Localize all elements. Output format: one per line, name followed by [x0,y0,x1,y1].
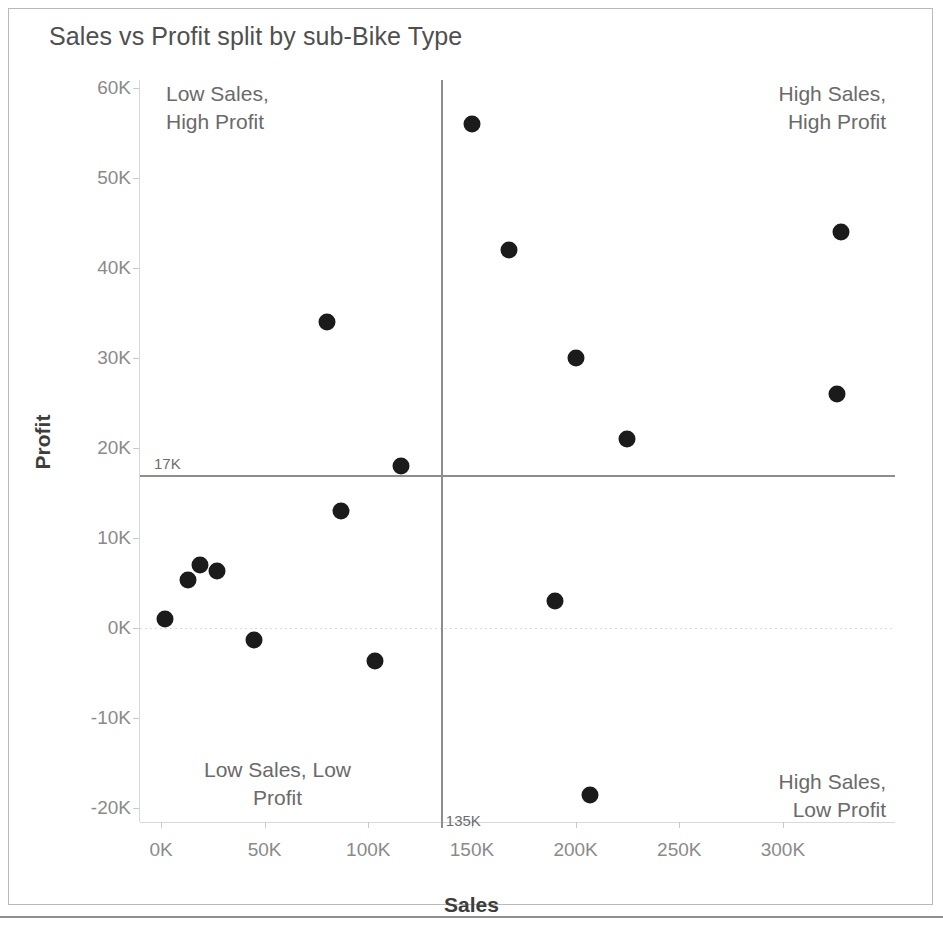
x-tick-label: 0K [149,839,172,861]
y-tick-mark [133,448,139,449]
scatter-point[interactable] [582,786,599,803]
x-tick-label: 250K [657,839,701,861]
y-tick-mark [133,718,139,719]
scatter-point[interactable] [192,557,209,574]
annotation-line-1: Low Sales, [166,80,269,108]
annotation-line-1: High Sales, [779,768,886,796]
y-axis-line [139,80,140,822]
scatter-point[interactable] [546,593,563,610]
scatter-point[interactable] [619,431,636,448]
y-axis-title: Profit [31,415,55,470]
zero-gridline-h [140,628,895,629]
x-tick-label: 100K [346,839,390,861]
y-tick-mark [133,88,139,89]
bottom-rule [0,916,943,918]
y-tick-mark [133,628,139,629]
y-tick-mark [133,538,139,539]
x-axis-title: Sales [0,893,943,917]
annotation-line-1: Low Sales, Low [155,756,400,784]
x-tick-mark [576,822,577,828]
x-tick-mark [679,822,680,828]
scatter-point[interactable] [463,116,480,133]
x-tick-mark [368,822,369,828]
annotation-line-2: Low Profit [779,796,886,824]
chart-page: Sales vs Profit split by sub-Bike Type 6… [0,0,943,943]
y-tick-mark [133,808,139,809]
annotation-low-sales-low-profit: Low Sales, Low Profit [155,756,400,813]
y-tick-mark [133,358,139,359]
annotation-low-sales-high-profit: Low Sales, High Profit [166,80,269,137]
scatter-point[interactable] [828,386,845,403]
annotation-high-sales-high-profit: High Sales, High Profit [779,80,886,137]
y-tick-mark [133,178,139,179]
scatter-point[interactable] [318,314,335,331]
chart-title: Sales vs Profit split by sub-Bike Type [49,22,462,51]
scatter-point[interactable] [366,653,383,670]
x-tick-label: 50K [248,839,282,861]
scatter-point[interactable] [208,563,225,580]
reference-line-horizontal [140,475,895,477]
scatter-point[interactable] [179,572,196,589]
x-tick-label: 200K [553,839,597,861]
annotation-high-sales-low-profit: High Sales, Low Profit [779,768,886,825]
scatter-point[interactable] [333,503,350,520]
x-tick-mark [265,822,266,828]
annotation-line-2: High Profit [779,108,886,136]
x-tick-label: 150K [450,839,494,861]
annotation-line-2: High Profit [166,108,269,136]
y-axis-title-wrap: Profit [62,0,102,943]
scatter-point[interactable] [157,611,174,628]
x-tick-mark [161,822,162,828]
scatter-point[interactable] [501,242,518,259]
reference-line-label-vertical: 135K [446,812,481,829]
scatter-point[interactable] [832,224,849,241]
reference-line-label-horizontal: 17K [154,455,181,472]
scatter-point[interactable] [246,631,263,648]
y-tick-mark [133,268,139,269]
reference-line-vertical [441,80,443,828]
scatter-point[interactable] [393,458,410,475]
annotation-line-2: Profit [155,784,400,812]
scatter-point[interactable] [567,350,584,367]
x-tick-label: 300K [761,839,805,861]
annotation-line-1: High Sales, [779,80,886,108]
